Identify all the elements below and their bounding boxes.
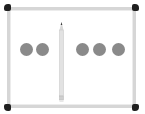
corner-cap-bottom-left <box>4 104 11 111</box>
corner-cap-bottom-right <box>132 104 139 111</box>
dot <box>76 43 89 56</box>
pencil-icon <box>59 22 64 102</box>
dot <box>93 43 106 56</box>
dot <box>36 43 49 56</box>
dot <box>112 43 125 56</box>
dot <box>20 43 33 56</box>
corner-cap-top-right <box>132 4 139 11</box>
corner-cap-top-left <box>4 4 11 11</box>
whiteboard <box>7 7 136 108</box>
